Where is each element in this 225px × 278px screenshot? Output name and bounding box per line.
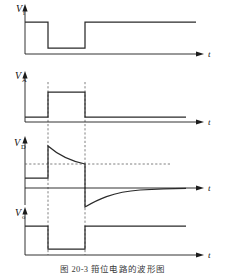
panel-vo-t-label: t [208,250,211,260]
panel-vi-trace [25,22,196,48]
panel-vi: V i t [16,3,211,59]
panel-va-t-label: t [208,117,211,127]
figure-caption: 图 20-3 箝位电路的波形图 [0,264,225,275]
panel-vo-trace [25,226,186,249]
alignment-guides [48,82,85,255]
panel-vd-t-label: t [208,183,211,193]
panel-va-trace [25,92,186,117]
panel-vo-x-arrow [196,252,204,257]
panel-vo: V o t [15,207,211,260]
panel-vi-x-arrow [196,51,204,56]
panel-vd-trace [25,146,186,207]
panel-va: V A t [15,70,211,127]
waveform-diagram: V i t V A t V D [0,0,225,278]
panel-vo-y-arrow [22,207,27,215]
waveform-figure: V i t V A t V D [0,0,225,278]
panel-vd: V D t [14,136,211,207]
panel-vd-x-arrow [196,185,204,190]
panel-va-x-arrow [196,119,204,124]
panel-vd-y-arrow [22,136,27,144]
panel-vi-t-label: t [208,49,211,59]
